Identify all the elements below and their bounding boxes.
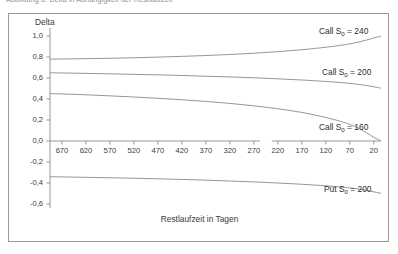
series-line-2 bbox=[50, 94, 381, 141]
series-label-2: Call S0 = 160 bbox=[319, 122, 368, 132]
y-tick-label: -0,6 bbox=[21, 199, 43, 208]
x-tick-label: 20 bbox=[362, 146, 386, 155]
x-tick-label: 320 bbox=[218, 146, 242, 155]
series-label-subscript: 0 bbox=[344, 71, 347, 78]
series-label-text: Call S bbox=[319, 26, 341, 36]
x-tick-label: 220 bbox=[266, 146, 290, 155]
series-label-1: Call S0 = 200 bbox=[322, 67, 371, 77]
series-label-value: = 200 bbox=[348, 184, 372, 194]
y-tick-label: -0,2 bbox=[21, 157, 43, 166]
x-tick-label: 70 bbox=[338, 146, 362, 155]
x-tick-label: 620 bbox=[74, 146, 98, 155]
x-tick-label: 420 bbox=[170, 146, 194, 155]
y-tick-label: -0,4 bbox=[21, 178, 43, 187]
series-label-text: Call S bbox=[319, 122, 341, 132]
figure-caption: Abbildung 8: Delta in Abhängigkeit der R… bbox=[6, 0, 173, 4]
chart-frame: Delta Restlaufzeit in Tagen 1,00,80,60,4… bbox=[8, 13, 389, 242]
series-label-subscript: 0 bbox=[344, 188, 347, 195]
y-axis-title: Delta bbox=[35, 17, 55, 27]
series-label-value: = 160 bbox=[345, 122, 369, 132]
series-label-value: = 200 bbox=[348, 67, 372, 77]
series-label-text: Call S bbox=[322, 67, 344, 77]
x-tick-label: 370 bbox=[194, 146, 218, 155]
y-tick-label: 0,2 bbox=[21, 115, 43, 124]
x-tick-label: 170 bbox=[290, 146, 314, 155]
x-tick-label: 470 bbox=[146, 146, 170, 155]
y-tick-label: 0,6 bbox=[21, 73, 43, 82]
series-label-3: Put S0 = 200 bbox=[324, 184, 371, 194]
x-tick-label: 270 bbox=[242, 146, 266, 155]
series-label-value: = 240 bbox=[345, 26, 369, 36]
series-line-0 bbox=[50, 36, 381, 59]
y-tick-label: 0,4 bbox=[21, 94, 43, 103]
y-tick-label: 0,0 bbox=[21, 136, 43, 145]
x-tick-label: 670 bbox=[50, 146, 74, 155]
x-tick-label: 520 bbox=[122, 146, 146, 155]
series-label-text: Put S bbox=[324, 184, 344, 194]
series-label-subscript: 0 bbox=[341, 126, 344, 133]
y-tick-label: 0,8 bbox=[21, 52, 43, 61]
x-tick-label: 120 bbox=[314, 146, 338, 155]
figure-caption-strip: Abbildung 8: Delta in Abhängigkeit der R… bbox=[0, 0, 398, 9]
x-axis-title: Restlaufzeit in Tagen bbox=[9, 214, 390, 224]
series-label-subscript: 0 bbox=[341, 30, 344, 37]
x-tick-label: 570 bbox=[98, 146, 122, 155]
y-tick-label: 1,0 bbox=[21, 31, 43, 40]
plot-area: Delta Restlaufzeit in Tagen 1,00,80,60,4… bbox=[9, 14, 390, 243]
series-label-0: Call S0 = 240 bbox=[319, 26, 368, 36]
